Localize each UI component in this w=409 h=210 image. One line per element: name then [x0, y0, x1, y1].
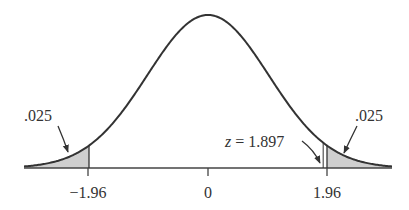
normal-distribution-diagram: −1.96 0 1.96 .025 .025 z = 1.897	[0, 0, 409, 210]
tick-label-neg: −1.96	[69, 184, 106, 201]
tick-label-zero: 0	[204, 184, 212, 201]
test-statistic-label: z = 1.897	[224, 133, 284, 150]
left-tail-arrow	[58, 126, 68, 152]
test-statistic-arrow	[302, 141, 320, 163]
normal-curve	[24, 15, 392, 166]
z-value: = 1.897	[231, 133, 284, 150]
right-tail-label: .025	[355, 107, 383, 124]
left-tail-label: .025	[24, 107, 52, 124]
right-tail-arrow	[344, 126, 357, 153]
tick-label-pos: 1.96	[313, 184, 341, 201]
